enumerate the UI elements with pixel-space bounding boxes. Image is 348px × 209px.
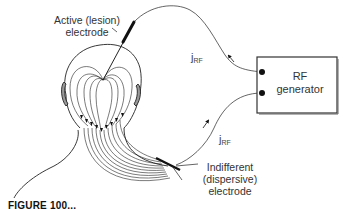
indifferent-electrode-label: Indifferent (dispersive) electrode (197, 161, 263, 197)
current-subscript: RF (193, 57, 202, 64)
current-label-top: jRF (191, 51, 203, 64)
indifferent-label-line3: electrode (197, 185, 263, 197)
rf-generator-label-line2: generator (272, 83, 328, 96)
rf-generator-label-line1: RF (272, 70, 328, 83)
figure-caption: FIGURE 100... (8, 200, 76, 209)
field-lines-neck (84, 120, 170, 181)
wire-generator-to-dispersive (176, 93, 262, 165)
current-subscript: RF (221, 139, 230, 146)
active-electrode-label-line1: Active (lesion) (52, 14, 122, 26)
indifferent-label-line2: (dispersive) (197, 173, 263, 185)
current-arrow-bottom-icon (203, 121, 208, 128)
generator-terminal-bottom (259, 90, 265, 96)
rf-generator-label: RF generator (272, 70, 328, 96)
active-electrode-label-line2: electrode (52, 26, 122, 38)
current-label-bottom: jRF (219, 133, 231, 146)
active-electrode-label: Active (lesion) electrode (52, 14, 122, 38)
indifferent-label-line1: Indifferent (197, 161, 263, 173)
field-lines-head (70, 67, 132, 130)
generator-terminal-top (259, 69, 265, 75)
